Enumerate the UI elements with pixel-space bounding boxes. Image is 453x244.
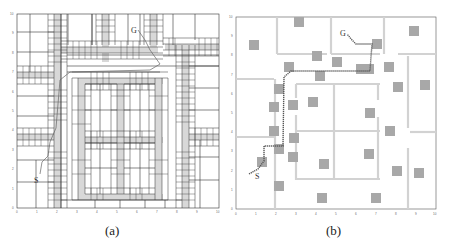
svg-text:6: 6 (12, 90, 14, 94)
svg-text:9: 9 (12, 31, 14, 35)
svg-text:1: 1 (12, 187, 14, 191)
obstacle-map-b: G S 012345678910 012345678910 (226, 0, 453, 244)
start-label-a: S (34, 176, 38, 185)
svg-text:7: 7 (231, 73, 233, 77)
svg-text:3: 3 (12, 148, 14, 152)
svg-text:2: 2 (231, 169, 233, 173)
svg-text:0: 0 (231, 207, 233, 211)
panel-b: G S 012345678910 012345678910 (b) (226, 0, 453, 244)
svg-text:8: 8 (395, 212, 397, 216)
svg-text:2: 2 (12, 167, 14, 171)
svg-text:5: 5 (116, 210, 118, 214)
svg-text:6: 6 (355, 212, 357, 216)
svg-text:5: 5 (12, 109, 14, 113)
svg-text:4: 4 (12, 128, 14, 132)
svg-text:10: 10 (216, 210, 220, 214)
svg-text:6: 6 (231, 92, 233, 96)
svg-text:1: 1 (255, 212, 257, 216)
svg-text:0: 0 (12, 206, 14, 210)
svg-text:9: 9 (415, 212, 417, 216)
corridors-a (17, 14, 219, 208)
grid-map-a: G S 012345678910 012345678910 (0, 0, 226, 244)
svg-text:0: 0 (16, 210, 18, 214)
plot-frame-b (236, 17, 436, 209)
svg-text:3: 3 (231, 149, 233, 153)
svg-text:8: 8 (12, 51, 14, 55)
svg-text:9: 9 (231, 34, 233, 38)
caption-b: (b) (326, 223, 341, 239)
svg-text:0: 0 (235, 212, 237, 216)
svg-text:3: 3 (76, 210, 78, 214)
x-ticks-b: 012345678910 (235, 212, 437, 216)
y-ticks-a: 012345678910 (10, 12, 14, 210)
svg-text:2: 2 (275, 212, 277, 216)
svg-text:9: 9 (196, 210, 198, 214)
svg-text:4: 4 (315, 212, 317, 216)
goal-label-a: G (131, 26, 137, 35)
svg-text:10: 10 (10, 12, 14, 16)
svg-text:4: 4 (96, 210, 98, 214)
caption-a: (a) (105, 223, 119, 239)
svg-text:10: 10 (229, 15, 233, 19)
svg-text:1: 1 (36, 210, 38, 214)
svg-text:5: 5 (231, 111, 233, 115)
svg-text:7: 7 (375, 212, 377, 216)
svg-text:7: 7 (156, 210, 158, 214)
svg-text:3: 3 (295, 212, 297, 216)
svg-text:8: 8 (231, 53, 233, 57)
svg-text:7: 7 (12, 70, 14, 74)
svg-text:2: 2 (56, 210, 58, 214)
panel-a: G S 012345678910 012345678910 (a) (0, 0, 226, 244)
y-ticks-b: 012345678910 (229, 15, 233, 211)
start-label-b: S (255, 172, 259, 181)
svg-text:5: 5 (335, 212, 337, 216)
goal-label-b: G (340, 29, 346, 38)
svg-text:10: 10 (433, 212, 437, 216)
svg-text:1: 1 (231, 188, 233, 192)
x-ticks-a: 012345678910 (16, 210, 220, 214)
svg-text:4: 4 (231, 130, 233, 134)
svg-text:6: 6 (136, 210, 138, 214)
svg-text:8: 8 (176, 210, 178, 214)
